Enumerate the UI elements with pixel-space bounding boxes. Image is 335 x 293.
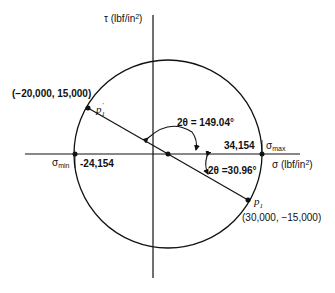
sigma-max-value: 34,154 [224,140,255,151]
p1-prime-point [86,106,91,111]
tau-axis-label: τ (lbf/in2) [104,13,142,24]
p1-prime-coords: (−20,000, 15,000) [12,88,91,99]
p1-label: p1 [253,195,263,210]
mohr-circle-diagram: τ (lbf/in2) σ (lbf/in2) (−20,000, 15,000… [0,0,335,293]
small-angle-label: 2θ =30.96° [208,165,257,176]
p1-point [246,198,251,203]
sigma-min-value: -24,154 [80,158,114,169]
sigma-max-label: σmax [266,140,286,152]
center-point [166,152,171,157]
large-angle-label: 2θ = 149.04° [177,117,234,128]
sigma-min-label: σmin [52,157,70,169]
sigma-axis-label: σ (lbf/in2) [272,159,313,170]
p1-coords: (30,000, −15,000) [242,212,321,223]
